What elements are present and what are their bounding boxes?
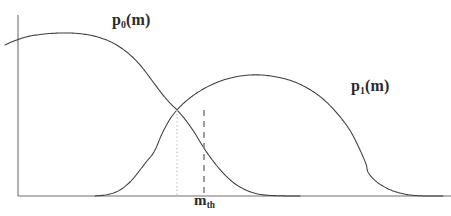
curve-p0 bbox=[5, 33, 300, 196]
threshold-label-base: m bbox=[194, 192, 207, 208]
curve-label-p1-subscript: 1 bbox=[360, 85, 365, 96]
curve-label-p1-tail: (m) bbox=[365, 77, 390, 94]
threshold-label-subscript: th bbox=[207, 200, 215, 210]
curve-p1 bbox=[95, 75, 443, 196]
curve-label-p1-base: p bbox=[351, 77, 360, 94]
figure-canvas bbox=[0, 0, 451, 216]
curve-label-p0: p0(m) bbox=[112, 12, 151, 28]
curve-label-p0-tail: (m) bbox=[126, 11, 151, 28]
curve-label-p0-subscript: 0 bbox=[121, 19, 126, 30]
probability-density-figure: p0(m) p1(m) mth bbox=[0, 0, 451, 216]
curve-label-p0-base: p bbox=[112, 11, 121, 28]
threshold-axis-label: mth bbox=[194, 193, 215, 208]
curve-label-p1: p1(m) bbox=[351, 78, 390, 94]
